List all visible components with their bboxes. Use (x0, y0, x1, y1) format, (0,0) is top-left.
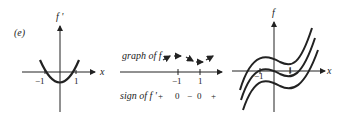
tick-label: −1 (35, 77, 45, 86)
y-axis-label: f ' (56, 12, 63, 22)
graph-label: graph of f (122, 51, 161, 61)
x-axis-label: x (100, 67, 104, 77)
sign-value: − (187, 92, 192, 101)
tick-label: −1 (254, 72, 264, 81)
figure-graphics (0, 0, 349, 120)
tick-label: 1 (74, 77, 79, 86)
sign-value: + (211, 92, 216, 101)
x-axis-label: x (327, 66, 331, 76)
part-label: (e) (14, 28, 25, 38)
cubic-curves (240, 28, 318, 110)
tick-label: 1 (198, 77, 203, 86)
antiderivative-family-graph (232, 22, 325, 112)
tick-label: 1 (288, 66, 293, 75)
slope-arrows-icon (163, 56, 213, 62)
sign-value: 0 (175, 92, 180, 101)
derivative-graph (22, 26, 95, 112)
tick-label: −1 (172, 77, 182, 86)
y-axis-label: f (272, 8, 275, 18)
sign-value: 0 (197, 92, 202, 101)
sign-value: + (158, 92, 163, 101)
sign-label: sign of f ' (120, 91, 157, 101)
